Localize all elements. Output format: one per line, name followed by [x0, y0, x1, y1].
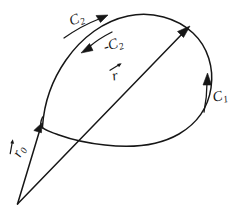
closed-contour-outline — [42, 14, 211, 146]
diagram-canvas — [0, 0, 247, 220]
vector-contour-diagram: C2 -C2 C1 r r0 — [0, 0, 247, 220]
direction-arc-c2-arrowhead — [96, 15, 108, 23]
direction-arc-c1-arrowhead — [203, 73, 212, 85]
vector-r0-arrowhead — [34, 123, 42, 133]
